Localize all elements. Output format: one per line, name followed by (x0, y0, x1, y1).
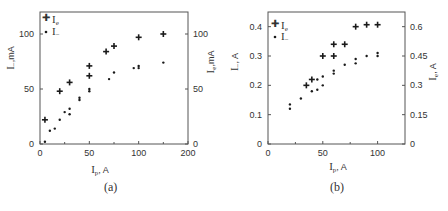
marker-dot (344, 64, 346, 66)
marker-dot (376, 55, 378, 57)
marker-dot (289, 108, 291, 110)
y-right-tick-label: 0.15 (410, 110, 428, 120)
panel-caption: (a) (104, 180, 117, 195)
marker-dot (311, 90, 313, 92)
chart-panel-a: 050100200 050100 050100 ✚ Ie I− Ip, A I−… (0, 0, 224, 211)
x-axis-label: Ip, A (329, 160, 347, 174)
y-right-tick-label: 0.6 (410, 22, 423, 32)
marker-dot (376, 52, 378, 54)
marker-dot (354, 58, 356, 60)
x-tick-label: 0 (265, 148, 270, 158)
marker-dot (289, 103, 291, 105)
legend-marker-dot (45, 31, 48, 34)
y-right-tick-label: 0.45 (410, 51, 428, 61)
legend-label-iminus: I− (52, 25, 60, 39)
y-left-tick-label: 0.3 (249, 51, 262, 61)
y-left-tick-label: 50 (24, 84, 34, 94)
marker-dot (59, 119, 61, 121)
x-tick-label: 200 (180, 148, 195, 158)
chart-panel-b: 050100 00.10.20.30.4 00.150.30.450.6 ✚ I… (224, 0, 448, 211)
marker-dot (88, 90, 90, 92)
legend-marker-dot (274, 36, 277, 39)
marker-dot (137, 67, 139, 69)
y-right-tick-label: 0 (410, 139, 415, 149)
x-tick-label: 0 (37, 148, 42, 158)
marker-dot (133, 67, 135, 69)
marker-dot (108, 78, 110, 80)
y-right-tick-label: 50 (193, 84, 203, 94)
marker-dot (113, 71, 115, 73)
marker-dot (333, 72, 335, 74)
x-tick-label: 50 (84, 148, 94, 158)
y-left-axis-label: I−,mA (4, 46, 18, 70)
y-left-tick-label: 0 (29, 139, 34, 149)
y-left-tick-label: 100 (19, 29, 34, 39)
y-left-tick-label: 0.2 (249, 80, 262, 90)
plot-frame (40, 12, 188, 144)
legend-marker-plus: ✚ (42, 12, 50, 23)
marker-dot (322, 84, 324, 86)
y-right-tick-label: 0 (193, 139, 198, 149)
marker-dot (88, 88, 90, 90)
panel-caption: (b) (330, 180, 344, 195)
y-left-tick-label: 0.1 (249, 110, 262, 120)
legend: ✚ Ie I− (271, 18, 289, 44)
marker-dot (54, 127, 56, 129)
x-tick-label: 100 (370, 148, 385, 158)
y-right-tick-label: 0.3 (410, 80, 423, 90)
marker-dot (300, 97, 302, 99)
marker-dot (322, 75, 324, 77)
marker-dot (316, 78, 318, 80)
marker-dot (63, 111, 65, 113)
marker-dot (137, 65, 139, 67)
legend: ✚ Ie I− (42, 12, 60, 39)
y-left-axis-label: I−, A (228, 53, 242, 71)
data-points (289, 22, 381, 110)
marker-dot (49, 130, 51, 132)
x-axis-label: Ip, A (91, 163, 109, 177)
marker-dot (78, 97, 80, 99)
marker-dot (333, 69, 335, 71)
x-tick-label: 100 (131, 148, 146, 158)
y-left-axis-ticks: 050100 (19, 29, 43, 149)
data-points (42, 31, 166, 143)
marker-dot (68, 108, 70, 110)
y-right-axis-label: Ie, A (426, 63, 440, 80)
plot-frame (268, 12, 405, 144)
marker-dot (68, 113, 70, 115)
marker-dot (316, 89, 318, 91)
marker-dot (354, 62, 356, 64)
y-left-tick-label: 0 (257, 139, 262, 149)
legend-marker-plus: ✚ (271, 18, 279, 29)
marker-dot (78, 99, 80, 101)
y-right-tick-label: 100 (193, 29, 208, 39)
marker-dot (162, 61, 164, 63)
y-left-tick-label: 0.4 (249, 22, 262, 32)
y-right-axis-ticks: 00.150.30.450.6 (402, 22, 428, 149)
marker-dot (44, 141, 46, 143)
y-right-axis-label: Ie,mA (204, 51, 218, 74)
marker-dot (365, 55, 367, 57)
x-tick-label: 50 (318, 148, 328, 158)
